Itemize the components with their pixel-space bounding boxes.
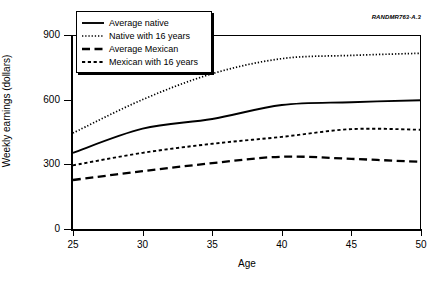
legend-label: Native with 16 years <box>109 31 190 41</box>
legend-item: Average native <box>82 16 205 29</box>
y-tick-mark <box>64 164 72 165</box>
x-tick-mark <box>282 229 283 236</box>
y-axis-title: Weekly earnings (dollars) <box>0 14 14 208</box>
x-tick-mark <box>351 229 352 236</box>
y-tick-label: 600 <box>20 95 60 105</box>
legend-label: Average native <box>109 18 169 28</box>
x-tick-label: 50 <box>401 240 437 250</box>
x-tick-label: 45 <box>331 240 371 250</box>
x-tick-label: 25 <box>53 240 93 250</box>
y-tick-label: 300 <box>20 159 60 169</box>
legend-line-swatch <box>82 57 104 67</box>
legend-label: Mexican with 16 years <box>109 57 198 67</box>
legend-box: Average nativeNative with 16 yearsAverag… <box>76 11 212 73</box>
legend-line-swatch <box>82 44 104 54</box>
series-line <box>73 157 421 180</box>
x-tick-label: 40 <box>262 240 302 250</box>
legend-item: Native with 16 years <box>82 29 205 42</box>
x-tick-mark <box>73 229 74 236</box>
y-tick-mark <box>64 100 72 101</box>
legend-line-swatch <box>82 18 104 28</box>
y-tick-mark <box>64 229 72 230</box>
x-tick-label: 35 <box>192 240 232 250</box>
x-tick-label: 30 <box>123 240 163 250</box>
legend-item: Average Mexican <box>82 42 205 55</box>
x-tick-mark <box>212 229 213 236</box>
legend-item: Mexican with 16 years <box>82 55 205 68</box>
y-tick-label: 0 <box>20 224 60 234</box>
x-tick-mark <box>421 229 422 236</box>
x-tick-mark <box>143 229 144 236</box>
legend-label: Average Mexican <box>109 44 178 54</box>
source-id-label: RANDMR763-A.3 <box>372 14 421 20</box>
legend-line-swatch <box>82 31 104 41</box>
figure-container: RANDMR763-A.3 Weekly earnings (dollars) … <box>0 0 437 285</box>
y-tick-mark <box>64 35 72 36</box>
y-tick-label: 900 <box>20 30 60 40</box>
x-axis-title: Age <box>73 258 421 269</box>
